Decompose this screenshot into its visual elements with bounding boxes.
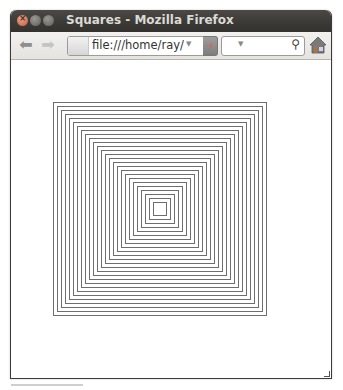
maximize-button[interactable] bbox=[43, 15, 54, 26]
taskbar-divider bbox=[11, 384, 83, 386]
home-button[interactable] bbox=[309, 36, 327, 54]
browser-window: × Squares - Mozilla Firefox ⬅ ➡ file:///… bbox=[10, 10, 332, 379]
url-bar[interactable]: file:///home/ray/squ ▼ bbox=[67, 36, 205, 56]
home-icon bbox=[309, 36, 327, 54]
search-engine-dropdown-icon[interactable]: ▼ bbox=[238, 40, 243, 48]
page-icon bbox=[68, 37, 89, 55]
close-icon: × bbox=[17, 14, 28, 23]
window-title: Squares - Mozilla Firefox bbox=[66, 13, 234, 27]
magnifier-icon[interactable]: ⚲ bbox=[291, 37, 300, 51]
go-arrow-icon: ➜ bbox=[206, 40, 214, 51]
url-input[interactable]: file:///home/ray/squ bbox=[92, 38, 184, 52]
minimize-button[interactable] bbox=[30, 15, 41, 26]
back-arrow-icon: ⬅ bbox=[19, 35, 32, 54]
back-button[interactable]: ⬅ bbox=[17, 37, 35, 53]
resize-grip[interactable] bbox=[324, 371, 330, 377]
go-button[interactable]: ➜ bbox=[203, 36, 218, 56]
forward-button[interactable]: ➡ bbox=[39, 37, 57, 53]
square bbox=[153, 202, 167, 216]
navigation-toolbar: ⬅ ➡ file:///home/ray/squ ▼ ➜ ▼ ⚲ bbox=[11, 32, 331, 60]
search-box[interactable]: ▼ ⚲ bbox=[221, 36, 305, 56]
title-bar[interactable]: × Squares - Mozilla Firefox bbox=[11, 10, 331, 32]
url-history-dropdown-icon[interactable]: ▼ bbox=[186, 40, 191, 48]
page-content bbox=[11, 60, 331, 378]
forward-arrow-icon: ➡ bbox=[41, 35, 54, 54]
close-button[interactable]: × bbox=[17, 15, 28, 26]
